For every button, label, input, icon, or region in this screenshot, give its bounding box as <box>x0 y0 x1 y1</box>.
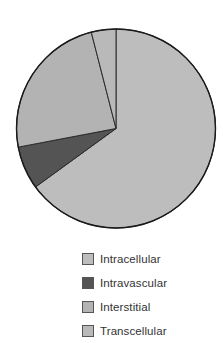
legend-swatch <box>82 325 94 337</box>
legend-label: Interstitial <box>100 301 150 313</box>
legend-item-transcellular: Transcellular <box>82 319 167 343</box>
legend-label: Transcellular <box>100 325 167 337</box>
legend-item-intravascular: Intravascular <box>82 271 167 295</box>
legend-label: Intracellular <box>100 253 161 265</box>
legend: Intracellular Intravascular Interstitial… <box>82 247 167 343</box>
legend-swatch <box>82 253 94 265</box>
legend-item-interstitial: Interstitial <box>82 295 167 319</box>
pie-chart <box>0 0 223 240</box>
legend-item-intracellular: Intracellular <box>82 247 167 271</box>
legend-swatch <box>82 301 94 313</box>
legend-label: Intravascular <box>100 277 167 289</box>
legend-swatch <box>82 277 94 289</box>
